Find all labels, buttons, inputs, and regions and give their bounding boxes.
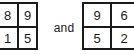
right-matrix: 9 6 5 2 [82,2,134,50]
matrix-pair-figure: 8 9 1 5 and 9 6 5 2 [0,0,134,55]
left-matrix-cell-r0c1: 9 [17,4,36,26]
left-matrix-cell-r0c0: 8 [0,4,17,26]
left-matrix: 8 9 1 5 [0,2,38,50]
right-matrix-cell-r0c1: 6 [110,4,134,26]
left-matrix-cell-r1c1: 5 [17,26,36,48]
right-matrix-cell-r1c0: 5 [84,26,110,48]
right-matrix-cell-r1c1: 2 [110,26,134,48]
right-matrix-cell-r0c0: 9 [84,4,110,26]
left-matrix-cell-r1c0: 1 [0,26,17,48]
conjunction-label: and [47,0,81,55]
